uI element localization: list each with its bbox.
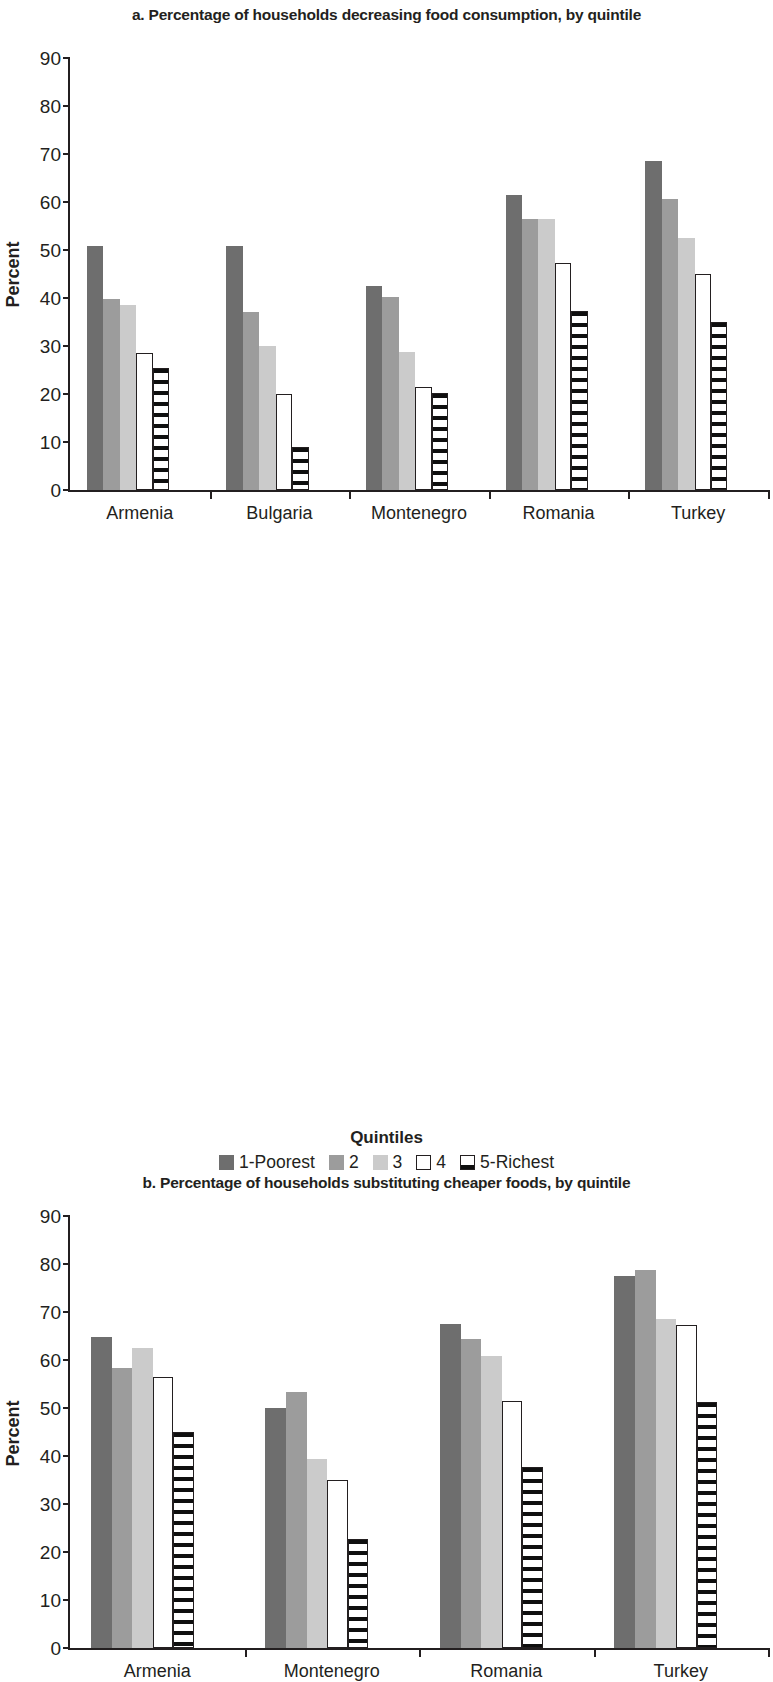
chart-panel-a: a. Percentage of households decreasing f… <box>0 0 773 560</box>
chart-a-y-tick-mark <box>63 297 70 299</box>
chart-a-y-tick-label: 30 <box>40 337 61 356</box>
bar-romania-q2 <box>461 1339 482 1648</box>
bar-montenegro-q4 <box>415 387 431 490</box>
bar-armenia-q4 <box>136 353 152 490</box>
chart-a-y-tick-mark <box>63 441 70 443</box>
bar-turkey-q5 <box>697 1402 718 1648</box>
legend-item-q5[interactable]: 5-Richest <box>460 1152 554 1173</box>
legend-title: Quintiles <box>0 1128 773 1148</box>
chart-b-y-tick-mark <box>63 1599 70 1601</box>
chart-b-y-tick-mark <box>63 1311 70 1313</box>
bar-turkey-q2 <box>635 1270 656 1648</box>
bar-turkey-q3 <box>656 1319 677 1648</box>
chart-a-y-tick-mark <box>63 105 70 107</box>
bar-group <box>419 1216 614 1648</box>
chart-panel-b: b. Percentage of households substituting… <box>0 578 773 1194</box>
chart-b-group-turkey: Turkey <box>594 1216 769 1648</box>
legend-item-q4[interactable]: 4 <box>416 1152 446 1173</box>
chart-b-x-tick-label: Turkey <box>594 1661 769 1682</box>
chart-a-y-tick-label: 60 <box>40 193 61 212</box>
chart-b-y-tick-label: 10 <box>40 1591 61 1610</box>
bar-group <box>489 58 645 490</box>
bar-armenia-q3 <box>132 1348 153 1648</box>
chart-b-x-tick-label: Montenegro <box>245 1661 420 1682</box>
bar-armenia-q5 <box>173 1432 194 1648</box>
bar-armenia-q2 <box>103 299 119 490</box>
bar-montenegro-q1 <box>265 1408 286 1648</box>
bar-romania-q1 <box>506 195 522 490</box>
chart-b-group-romania: Romania <box>419 1216 594 1648</box>
bar-armenia-q5 <box>153 368 169 490</box>
bar-montenegro-q5 <box>348 1539 369 1648</box>
bar-romania-q4 <box>502 1401 523 1648</box>
bar-bulgaria-q1 <box>226 246 242 490</box>
chart-b-y-tick-label: 50 <box>40 1399 61 1418</box>
chart-b-x-axis-end-tick <box>768 1648 770 1657</box>
chart-b-plot-area: 0102030405060708090ArmeniaMontenegroRoma… <box>68 1216 768 1650</box>
chart-a-x-tick-mark <box>489 490 491 499</box>
chart-b-x-tick-label: Armenia <box>70 1661 245 1682</box>
chart-a-group-bulgaria: Bulgaria <box>210 58 350 490</box>
legend-item-q1[interactable]: 1-Poorest <box>219 1152 315 1173</box>
bar-armenia-q2 <box>112 1368 133 1648</box>
bar-group <box>70 1216 265 1648</box>
bar-romania-q1 <box>440 1324 461 1648</box>
chart-b-y-tick-mark <box>63 1359 70 1361</box>
bar-turkey-q1 <box>614 1276 635 1648</box>
chart-b-y-tick-label: 80 <box>40 1255 61 1274</box>
legend-swatch-icon-q5 <box>460 1155 475 1170</box>
chart-a-x-tick-label: Romania <box>489 503 629 524</box>
chart-a-x-axis-end-tick <box>768 490 770 499</box>
bar-group <box>628 58 773 490</box>
chart-a-x-tick-label: Turkey <box>628 503 768 524</box>
chart-a-y-tick-mark <box>63 249 70 251</box>
chart-a-y-tick-label: 20 <box>40 385 61 404</box>
chart-b-y-tick-mark <box>63 1647 70 1649</box>
bar-turkey-q1 <box>645 161 661 490</box>
bar-bulgaria-q2 <box>243 312 259 490</box>
bar-turkey-q3 <box>678 238 694 490</box>
legend-swatch-icon-q2 <box>329 1155 344 1170</box>
chart-b-y-tick-mark <box>63 1263 70 1265</box>
bar-turkey-q5 <box>711 322 727 490</box>
bar-armenia-q1 <box>91 1337 112 1648</box>
chart-b-y-tick-label: 70 <box>40 1303 61 1322</box>
chart-b-y-tick-mark <box>63 1215 70 1217</box>
bar-turkey-q4 <box>676 1325 697 1648</box>
chart-b-y-tick-label: 30 <box>40 1495 61 1514</box>
bar-romania-q3 <box>538 219 554 490</box>
legend-item-q2[interactable]: 2 <box>329 1152 359 1173</box>
bar-turkey-q2 <box>662 199 678 490</box>
chart-b-y-tick-mark <box>63 1503 70 1505</box>
bar-montenegro-q2 <box>286 1392 307 1648</box>
chart-b-x-tick-mark <box>419 1648 421 1657</box>
bar-romania-q3 <box>481 1356 502 1648</box>
chart-a-y-tick-label: 0 <box>50 481 61 500</box>
chart-a-group-romania: Romania <box>489 58 629 490</box>
chart-b-y-tick-label: 90 <box>40 1207 61 1226</box>
bar-montenegro-q3 <box>307 1459 328 1648</box>
chart-a-y-tick-mark <box>63 489 70 491</box>
bar-armenia-q3 <box>120 305 136 490</box>
chart-b-group-armenia: Armenia <box>70 1216 245 1648</box>
bar-group <box>210 58 366 490</box>
bar-bulgaria-q3 <box>259 346 275 490</box>
legend-swatch-icon-q4 <box>416 1155 431 1170</box>
bar-turkey-q4 <box>695 274 711 490</box>
chart-b-y-tick-mark <box>63 1455 70 1457</box>
chart-b-y-tick-label: 40 <box>40 1447 61 1466</box>
chart-a-y-tick-label: 10 <box>40 433 61 452</box>
legend-item-q3[interactable]: 3 <box>373 1152 403 1173</box>
chart-a-y-tick-label: 90 <box>40 49 61 68</box>
bar-armenia-q4 <box>153 1377 174 1648</box>
legend-label: 5-Richest <box>480 1152 554 1173</box>
bar-romania-q5 <box>522 1467 543 1648</box>
legend-label: 1-Poorest <box>239 1152 315 1173</box>
chart-a-y-tick-label: 70 <box>40 145 61 164</box>
chart-a-x-tick-label: Bulgaria <box>210 503 350 524</box>
bar-bulgaria-q4 <box>276 394 292 490</box>
bar-group <box>594 1216 773 1648</box>
chart-b-y-axis-title: Percent <box>3 1389 24 1479</box>
chart-b-y-tick-mark <box>63 1551 70 1553</box>
chart-b-y-tick-label: 20 <box>40 1543 61 1562</box>
